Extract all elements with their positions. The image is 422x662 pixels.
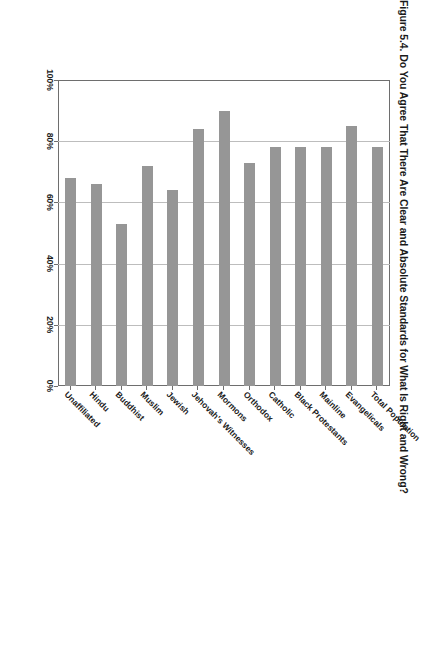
bar [142, 166, 153, 386]
bar [270, 147, 281, 386]
bar-row [313, 80, 339, 386]
bar-row [364, 80, 390, 386]
bar-row [211, 80, 237, 386]
x-axis-tick-mark [54, 325, 58, 326]
bar-row [84, 80, 110, 386]
bar-row [186, 80, 212, 386]
category-tick-mark [146, 386, 147, 390]
bar [167, 190, 178, 386]
bar [219, 111, 230, 386]
x-axis-tick-mark [54, 264, 58, 265]
bar [244, 163, 255, 386]
bar-row [262, 80, 288, 386]
bar [91, 184, 102, 386]
bar-row [288, 80, 314, 386]
bar [346, 126, 357, 386]
bar [193, 129, 204, 386]
x-axis-tick-mark [54, 386, 58, 387]
bar [321, 147, 332, 386]
plot-area [58, 80, 390, 386]
bar-row [339, 80, 365, 386]
x-axis-tick-mark [54, 202, 58, 203]
x-axis-tick-mark [54, 80, 58, 81]
bar-row [135, 80, 161, 386]
bar-row [237, 80, 263, 386]
figure-title: Figure 5.4. Do You Agree That There Are … [398, 0, 410, 600]
bar-row [160, 80, 186, 386]
category-label: Hindu [88, 389, 112, 413]
bar [65, 178, 76, 386]
bar [116, 224, 127, 386]
bars-group [58, 80, 390, 386]
bar [295, 147, 306, 386]
bar-row [58, 80, 84, 386]
bar-row [109, 80, 135, 386]
category-tick-mark [197, 386, 198, 390]
category-label: Jewish [164, 389, 191, 416]
bar [372, 147, 383, 386]
x-axis-tick-mark [54, 141, 58, 142]
